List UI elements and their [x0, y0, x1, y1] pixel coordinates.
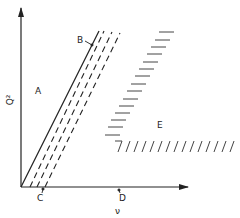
point-label-d: D — [119, 193, 126, 203]
dashed-line-3 — [45, 33, 120, 187]
region-e-diagonal-boundary — [105, 32, 174, 135]
curve-label-b: B — [77, 35, 83, 45]
dashed-lines — [30, 31, 120, 187]
region-label-e: E — [157, 120, 163, 130]
point-label-c: C — [37, 193, 43, 203]
axes — [21, 8, 188, 187]
dashed-line-2 — [37, 32, 112, 187]
dashed-line-1 — [30, 31, 104, 187]
x-axis-label: ν — [115, 206, 120, 216]
solid-line-b — [21, 31, 99, 187]
y-axis-label: Q² — [5, 94, 15, 105]
kinematic-diagram: Q² ν A B C D E — [0, 0, 240, 218]
region-e-hatched-boundary — [115, 141, 234, 152]
label-pointers — [42, 41, 120, 193]
region-label-a: A — [35, 86, 42, 96]
